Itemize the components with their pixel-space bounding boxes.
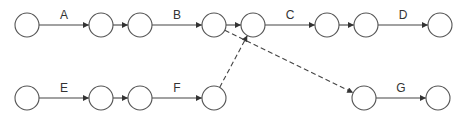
activity-label-a: A (60, 8, 68, 22)
event-node-n6 (315, 13, 339, 37)
event-node-m5 (352, 86, 376, 110)
event-node-m3 (128, 86, 152, 110)
nodes-layer (15, 13, 452, 110)
event-node-m1 (15, 86, 39, 110)
activity-label-c: C (286, 8, 295, 22)
event-node-m2 (89, 86, 113, 110)
activity-label-f: F (173, 81, 180, 95)
dummy-activity-arrow (225, 30, 353, 92)
activity-label-e: E (60, 81, 68, 95)
event-node-n3 (128, 13, 152, 37)
event-node-n5 (241, 13, 265, 37)
event-node-n1 (15, 13, 39, 37)
event-node-n4 (202, 13, 226, 37)
event-node-n2 (89, 13, 113, 37)
event-node-n7 (354, 13, 378, 37)
network-diagram: ABCDEFG (0, 0, 462, 118)
event-node-m6 (426, 86, 450, 110)
activity-label-g: G (396, 81, 405, 95)
activity-label-b: B (173, 8, 181, 22)
dummy-activity-arrow (220, 36, 248, 88)
activity-label-d: D (399, 8, 408, 22)
event-node-m4 (202, 86, 226, 110)
event-node-n8 (428, 13, 452, 37)
